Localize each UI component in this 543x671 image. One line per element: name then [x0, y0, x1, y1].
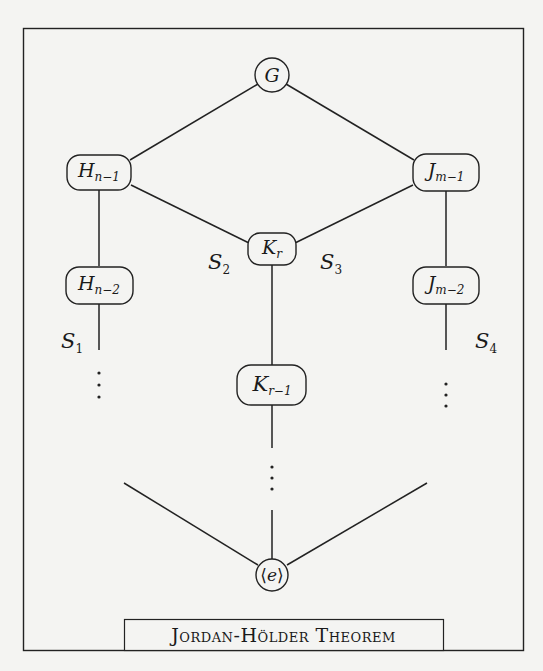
edge-right-e: [287, 483, 427, 565]
node-k-r: Kr: [262, 238, 282, 260]
edge-j1-kr: [295, 185, 413, 243]
node-k-r-sub: r: [276, 247, 282, 261]
diagram-caption: Jordan-Hölder Theorem: [124, 619, 443, 650]
node-j-m-2-sub: m−2: [435, 283, 464, 297]
series-s4-letter: S: [475, 329, 489, 353]
series-s3-letter: S: [320, 250, 334, 274]
series-s1-sub: 1: [75, 342, 83, 356]
node-h-n-2-sub: n−2: [95, 283, 120, 297]
edge-g-h1: [130, 84, 258, 160]
node-k-r-label: K: [262, 236, 276, 258]
series-s3-sub: 3: [334, 263, 342, 277]
node-h-n-1-sub: n−1: [95, 170, 120, 184]
node-k-r-1: Kr−1: [252, 374, 291, 397]
series-s4-sub: 4: [489, 342, 497, 356]
node-e-label: e: [267, 565, 277, 585]
series-s2-sub: 2: [222, 263, 230, 277]
node-h-n-2-label: H: [78, 272, 95, 294]
node-j-m-2-label: J: [428, 272, 436, 294]
node-k-r-1-sub: r−1: [268, 384, 291, 398]
series-label-s2: S2: [208, 252, 230, 276]
series-label-s1: S1: [61, 331, 83, 355]
node-g-label: G: [264, 64, 279, 86]
node-j-m-1-sub: m−1: [435, 170, 464, 184]
node-g: G: [264, 66, 279, 85]
node-h-n-1-label: H: [78, 159, 95, 181]
series-label-s3: S3: [320, 252, 342, 276]
edge-h1-kr: [131, 185, 249, 243]
series-label-s4: S4: [475, 331, 497, 355]
node-j-m-2: Jm−2: [428, 274, 465, 296]
edge-left-e: [124, 483, 258, 565]
node-k-r-1-label: K: [252, 372, 268, 396]
node-e: ⟨e⟩: [260, 567, 283, 584]
node-h-n-2: Hn−2: [78, 274, 120, 296]
node-j-m-1-label: J: [428, 159, 436, 181]
node-e-open: ⟨: [260, 565, 267, 585]
node-j-m-1: Jm−1: [428, 161, 465, 183]
edge-g-j1: [286, 84, 414, 160]
node-h-n-1: Hn−1: [78, 161, 120, 183]
series-s2-letter: S: [208, 250, 222, 274]
node-e-close: ⟩: [277, 565, 284, 585]
series-s1-letter: S: [61, 329, 75, 353]
